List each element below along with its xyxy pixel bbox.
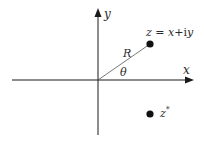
radius-label: R: [122, 47, 131, 60]
angle-label: θ: [120, 66, 127, 79]
point-z-label-eq: =: [152, 26, 168, 39]
y-axis-label: y: [103, 7, 111, 21]
diagram-canvas: y x z = x+iy R θ z*: [0, 0, 204, 143]
point-z-conjugate-label: z*: [159, 105, 170, 120]
point-z-label-y: y: [186, 26, 194, 39]
complex-plane-diagram: y x z = x+iy R θ z*: [0, 0, 204, 143]
x-axis-label: x: [183, 63, 190, 77]
y-axis-arrowhead-icon: [95, 8, 102, 17]
x-axis-arrowhead-icon: [185, 77, 194, 84]
point-z-conjugate-label-sup: *: [166, 105, 170, 114]
point-z-label-plus-i: +i: [174, 26, 187, 39]
point-z: [146, 40, 153, 47]
point-z-label: z = x+iy: [145, 26, 194, 39]
point-z-conjugate: [146, 110, 153, 117]
